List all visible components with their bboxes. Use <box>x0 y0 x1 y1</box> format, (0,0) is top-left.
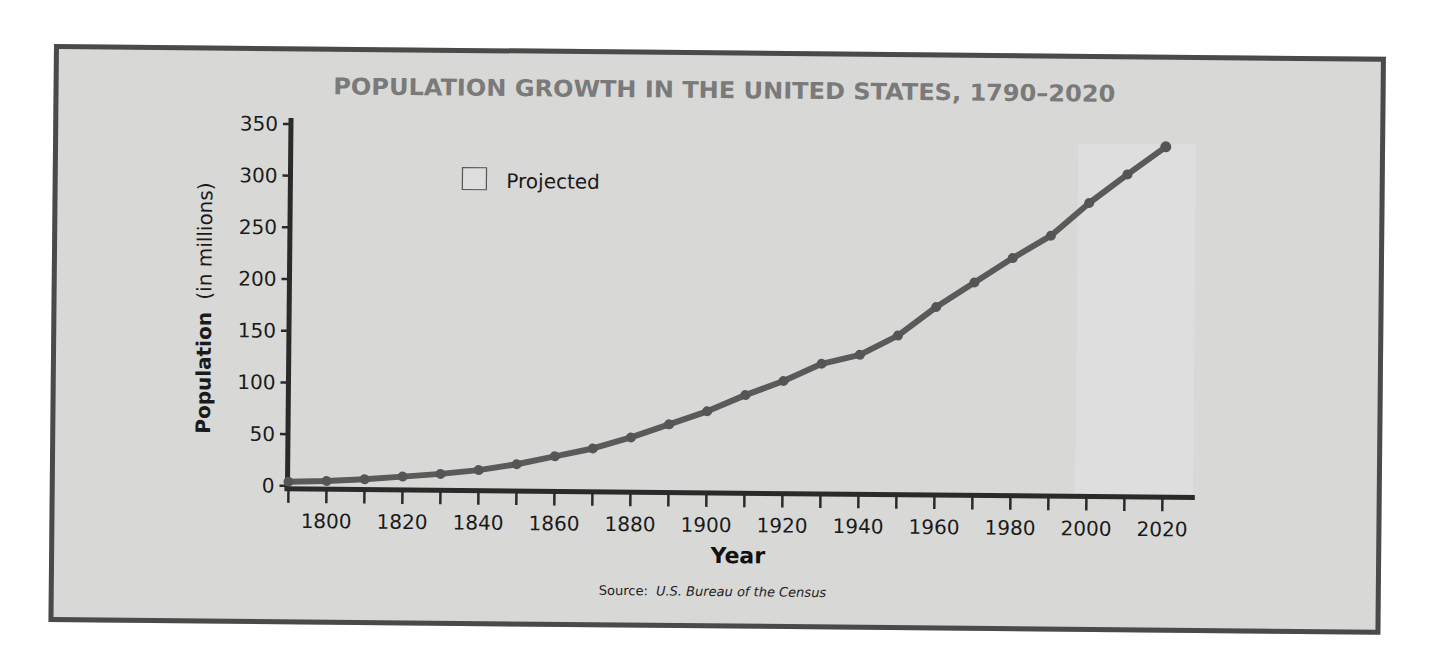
legend: Projected <box>462 168 600 194</box>
data-point <box>931 302 941 312</box>
data-point <box>398 472 408 482</box>
x-tick-label: 1880 <box>605 512 656 536</box>
data-point <box>740 390 750 400</box>
data-point <box>626 432 636 442</box>
x-tick-label: 2000 <box>1061 516 1112 540</box>
x-tick-label: 1840 <box>453 510 504 534</box>
data-point <box>1008 253 1018 263</box>
data-point <box>588 443 598 453</box>
y-tick-label: 100 <box>237 370 275 394</box>
data-point <box>969 277 979 287</box>
y-axis-ticks: 050100150200250300350 <box>236 111 291 497</box>
x-axis <box>284 489 1194 498</box>
y-tick-label: 0 <box>262 474 275 498</box>
data-point <box>360 474 370 484</box>
legend-label-projected: Projected <box>506 169 600 194</box>
source-note: Source: U.S. Bureau of the Census <box>599 583 827 600</box>
data-point <box>1046 231 1056 241</box>
x-tick-label: 1860 <box>529 511 580 535</box>
y-tick-label: 300 <box>239 163 277 187</box>
x-axis-label: Year <box>709 543 765 569</box>
y-axis <box>287 118 291 489</box>
data-point <box>664 419 674 429</box>
data-point <box>436 469 446 479</box>
y-tick-label: 350 <box>240 111 278 135</box>
y-tick-label: 50 <box>249 422 275 446</box>
projected-region <box>1075 143 1196 494</box>
x-tick-label: 1980 <box>985 516 1036 540</box>
x-tick-label: 1900 <box>681 513 732 537</box>
data-point <box>1122 169 1132 179</box>
data-point <box>855 350 865 360</box>
population-chart: POPULATION GROWTH IN THE UNITED STATES, … <box>0 0 1440 661</box>
x-tick-label: 1820 <box>377 510 428 534</box>
x-tick-label: 1940 <box>833 514 884 538</box>
x-tick-label: 2020 <box>1137 517 1188 541</box>
y-tick-label: 150 <box>238 318 276 342</box>
data-point <box>702 406 712 416</box>
chart-title: POPULATION GROWTH IN THE UNITED STATES, … <box>333 73 1115 107</box>
x-tick-label: 1960 <box>909 515 960 539</box>
population-line <box>289 138 1166 490</box>
x-tick-label: 1920 <box>757 513 808 537</box>
data-point <box>778 376 788 386</box>
data-point <box>1160 141 1171 152</box>
data-point <box>893 331 903 341</box>
y-tick-label: 250 <box>239 215 277 239</box>
x-tick-label: 1800 <box>301 509 352 533</box>
data-point <box>321 476 331 486</box>
population-markers <box>283 133 1171 495</box>
data-point <box>512 459 522 469</box>
data-point <box>474 465 484 475</box>
data-point <box>817 359 827 369</box>
y-tick-label: 200 <box>238 267 276 291</box>
legend-swatch-projected <box>462 168 486 190</box>
data-point <box>550 451 560 461</box>
data-point <box>283 477 293 487</box>
data-point <box>1084 198 1094 208</box>
y-axis-label: Population (in millions) <box>191 182 217 434</box>
